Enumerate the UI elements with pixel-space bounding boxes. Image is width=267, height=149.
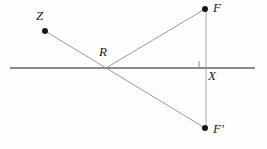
point-label-z: Z <box>36 9 43 22</box>
point-label-x: X <box>208 69 216 82</box>
point-marker-f <box>202 6 208 12</box>
point-marker-z <box>42 28 48 34</box>
right-angle-marker-icon <box>199 61 206 68</box>
segment-r-f <box>106 9 205 68</box>
point-label-r: R <box>99 45 107 58</box>
line-z-r-fprime <box>45 31 205 128</box>
point-label-f: F <box>213 1 221 14</box>
point-marker-fprime <box>202 125 208 131</box>
geometry-figure: Z R F X F' <box>0 0 267 149</box>
point-label-f-prime: F' <box>213 122 224 135</box>
